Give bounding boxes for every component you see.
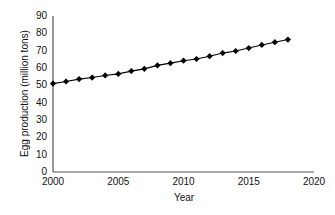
data-point-marker <box>76 76 82 82</box>
data-point-marker <box>102 72 108 78</box>
data-point-marker <box>167 60 173 66</box>
x-tick-label: 2015 <box>229 177 269 187</box>
x-tick-label: 2000 <box>33 177 73 187</box>
data-point-marker <box>193 56 199 62</box>
data-point-marker <box>220 50 226 56</box>
data-point-marker <box>207 53 213 59</box>
data-point-marker <box>154 62 160 68</box>
data-point-marker <box>259 42 265 48</box>
data-series-egg-production <box>50 36 291 86</box>
data-point-marker <box>141 66 147 72</box>
x-axis-title: Year <box>53 192 315 203</box>
data-point-marker <box>233 48 239 54</box>
data-point-marker <box>50 81 56 87</box>
egg-production-line-chart: 0102030405060708090 20002005201020152020… <box>0 0 335 215</box>
data-point-marker <box>285 36 291 42</box>
data-point-marker <box>180 58 186 64</box>
data-point-marker <box>272 39 278 45</box>
x-tick-label: 2005 <box>98 177 138 187</box>
data-point-marker <box>246 45 252 51</box>
y-axis-title: Egg production (million tons) <box>19 14 30 174</box>
x-tick-label: 2010 <box>164 177 204 187</box>
data-point-marker <box>115 71 121 77</box>
data-point-marker <box>63 78 69 84</box>
series-markers <box>50 36 291 86</box>
data-point-marker <box>89 74 95 80</box>
data-point-marker <box>128 68 134 74</box>
x-tick-label: 2020 <box>294 177 334 187</box>
